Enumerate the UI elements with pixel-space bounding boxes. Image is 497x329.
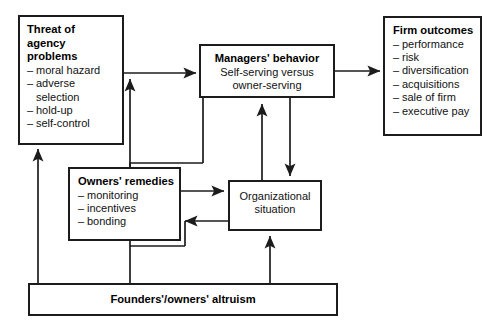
node-managers-title: Managers' behavior [201, 52, 333, 66]
node-threat-title-line-1: Threat of [27, 23, 122, 37]
list-item-label: performance [402, 38, 464, 50]
list-item: –acquisitions [393, 78, 480, 91]
bullet-dash-icon: – [393, 64, 402, 77]
node-managers-subtitle-line-2: owner-serving [201, 79, 333, 92]
bullet-dash-icon: – [393, 78, 402, 91]
bullet-dash-icon: – [27, 104, 36, 117]
node-owners-remedies: Owners' remedies –monitoring –incentives… [68, 167, 181, 241]
list-item-label: incentives [87, 202, 136, 214]
node-orgsit-title-line-2: situation [230, 203, 320, 216]
node-remedies-item-list: –monitoring –incentives –bonding [78, 189, 179, 229]
list-item-label: executive pay [402, 105, 469, 117]
node-threat-title-line-3: problems [27, 50, 122, 64]
list-item: –hold-up [27, 104, 122, 117]
node-altruism-title: Founders'/owners' altruism [110, 293, 255, 307]
bullet-dash-icon: – [78, 215, 87, 228]
bullet-dash-icon: – [78, 202, 87, 215]
bullet-dash-icon: – [393, 91, 402, 104]
node-organizational-situation: Organizational situation [228, 180, 322, 231]
node-remedies-title: Owners' remedies [78, 175, 179, 189]
list-item-label: sale of firm [402, 91, 456, 103]
list-item-label: moral hazard [36, 64, 100, 76]
list-item-label: self-control [36, 117, 90, 129]
node-outcomes-title: Firm outcomes [393, 24, 480, 38]
list-item-label: selection [36, 91, 79, 103]
list-item: –adverse [27, 77, 122, 90]
list-item-label: adverse [36, 77, 75, 89]
list-item: –incentives [78, 202, 179, 215]
list-item: –performance [393, 38, 480, 51]
node-outcomes-item-list: –performance –risk –diversification –acq… [393, 38, 480, 118]
list-item: –risk [393, 51, 480, 64]
node-threat-item-list: –moral hazard –adverse selection –hold-u… [27, 64, 122, 131]
list-item: –self-control [27, 117, 122, 130]
node-orgsit-title-line-1: Organizational [230, 190, 320, 203]
list-item-label: acquisitions [402, 78, 459, 90]
list-item: –bonding [78, 215, 179, 228]
bullet-dash-icon: – [393, 51, 402, 64]
bullet-dash-icon: – [393, 105, 402, 118]
list-item-label: monitoring [87, 189, 138, 201]
list-item-label: bonding [87, 215, 126, 227]
diagram-canvas: Threat of agency problems –moral hazard … [0, 0, 497, 329]
list-item: –sale of firm [393, 91, 480, 104]
list-item-label: diversification [402, 64, 469, 76]
list-item: –diversification [393, 64, 480, 77]
bullet-dash-icon: – [27, 77, 36, 90]
list-item: –monitoring [78, 189, 179, 202]
list-item: –moral hazard [27, 64, 122, 77]
bullet-dash-icon: – [78, 189, 87, 202]
node-threat-title-line-2: agency [27, 37, 122, 51]
node-managers-subtitle-line-1: Self-serving versus [201, 66, 333, 79]
list-item-label: hold-up [36, 104, 73, 116]
bullet-dash-icon: – [27, 64, 36, 77]
bullet-dash-icon: – [27, 117, 36, 130]
node-threat-of-agency-problems: Threat of agency problems –moral hazard … [18, 15, 124, 145]
node-firm-outcomes: Firm outcomes –performance –risk –divers… [383, 16, 482, 136]
bullet-dash-icon: – [393, 38, 402, 51]
list-item-continuation: selection [27, 91, 122, 104]
list-item-label: risk [402, 51, 419, 63]
node-managers-behavior: Managers' behavior Self-serving versus o… [199, 44, 335, 98]
list-item: –executive pay [393, 105, 480, 118]
node-founders-owners-altruism: Founders'/owners' altruism [28, 283, 338, 316]
